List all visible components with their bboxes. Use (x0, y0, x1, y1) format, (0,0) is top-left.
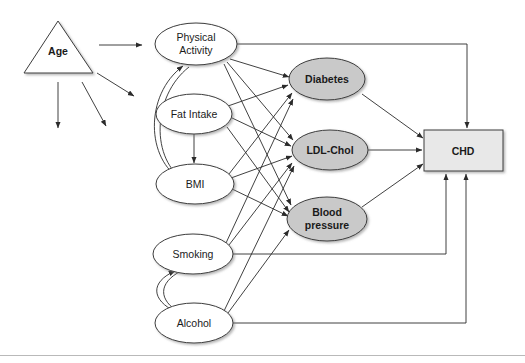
node-alcohol-label: Alcohol (177, 317, 211, 329)
node-chd-label: CHD (452, 145, 475, 157)
edge-alcohol-to-chd-routed (232, 174, 466, 323)
node-physical-activity-label-line1: Physical (176, 31, 215, 43)
node-fat-intake[interactable]: Fat Intake (156, 94, 232, 134)
node-smoking-label: Smoking (173, 248, 214, 260)
edge-fat-to-bloodpressure (227, 127, 289, 212)
node-age-label: Age (48, 45, 68, 57)
edge-physical-to-diabetes (230, 59, 289, 77)
edge-bloodpressure-to-chd (362, 164, 423, 207)
node-blood-pressure-label-line1: Blood (312, 206, 342, 218)
diagram-canvas: Age Physical Activity Fat Intake BMI (0, 0, 525, 363)
node-smoking[interactable]: Smoking (153, 234, 233, 274)
edge-bmi-to-diabetes (229, 93, 292, 174)
node-ldl-chol-label: LDL-Chol (306, 144, 353, 156)
edge-layer (58, 44, 467, 323)
node-physical-activity-label-line2: Activity (179, 44, 213, 56)
edge-age-down-right (82, 82, 106, 126)
node-ldl-chol[interactable]: LDL-Chol (292, 130, 368, 170)
node-diabetes-label: Diabetes (305, 73, 349, 85)
edge-fat-to-diabetes (228, 85, 288, 106)
node-bmi[interactable]: BMI (156, 164, 234, 204)
edge-alcohol-to-bloodpressure (228, 230, 289, 313)
node-physical-activity[interactable]: Physical Activity (155, 23, 237, 65)
node-bmi-label: BMI (186, 178, 205, 190)
node-blood-pressure[interactable]: Blood pressure (287, 197, 367, 241)
causal-diagram: Age Physical Activity Fat Intake BMI (0, 0, 525, 363)
edge-diabetes-to-chd (362, 94, 423, 138)
edge-age-to-fat (97, 73, 134, 96)
edge-smoking-to-diabetes (226, 99, 293, 243)
node-chd[interactable]: CHD (424, 130, 503, 171)
edge-bmi-to-bloodpressure (230, 188, 288, 216)
node-age[interactable]: Age (24, 21, 93, 73)
node-alcohol[interactable]: Alcohol (155, 303, 233, 343)
edge-physical-to-ldl (227, 62, 293, 140)
node-diabetes[interactable]: Diabetes (289, 58, 365, 100)
node-fat-intake-label: Fat Intake (171, 108, 218, 120)
node-blood-pressure-label-line2: pressure (305, 219, 350, 231)
